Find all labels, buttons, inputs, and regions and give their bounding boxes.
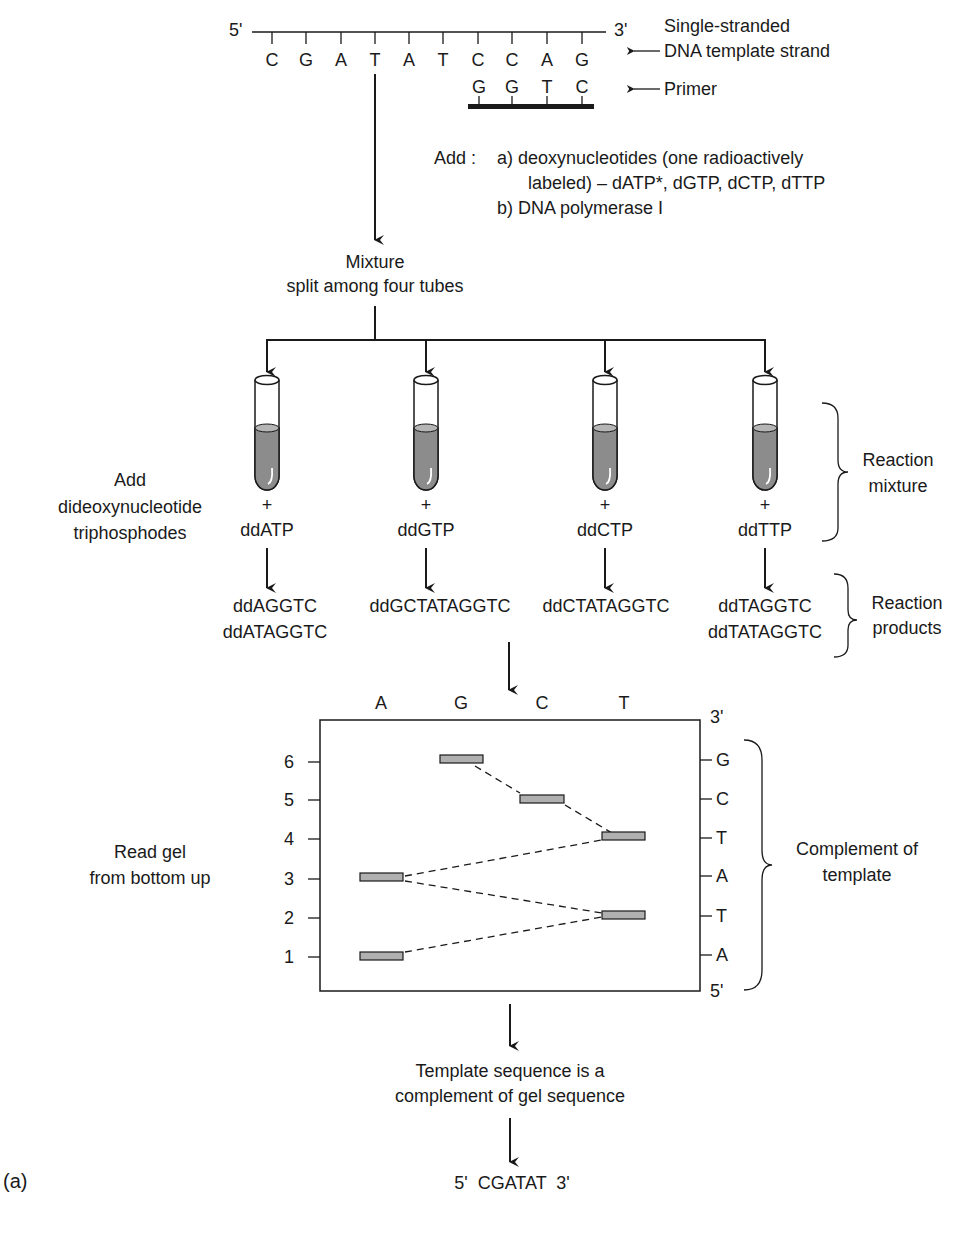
primer-label: Primer bbox=[664, 78, 717, 100]
tube-ddttp bbox=[753, 376, 777, 491]
lane-label: G bbox=[454, 692, 468, 714]
add-prefix: Add : bbox=[434, 147, 476, 169]
template-5prime: 5' bbox=[229, 19, 242, 41]
tube-plus: + bbox=[600, 494, 611, 516]
gel-3prime: 3' bbox=[710, 706, 723, 728]
primer-base: G bbox=[505, 76, 519, 98]
product: ddATAGGTC bbox=[223, 621, 327, 643]
primer-base: G bbox=[472, 76, 486, 98]
lane-label: A bbox=[375, 692, 387, 714]
add-a-line1: a) deoxynucleotides (one radioactively bbox=[497, 147, 803, 169]
template-label-line1: Single-stranded bbox=[664, 15, 790, 37]
template-base: A bbox=[335, 49, 347, 71]
primer-base: T bbox=[542, 76, 553, 98]
reaction-products-label-1: Reaction bbox=[871, 592, 942, 614]
complement-label-1: Complement of bbox=[796, 838, 918, 860]
tick-base: A bbox=[716, 944, 728, 966]
template-base: A bbox=[541, 49, 553, 71]
tick-base: T bbox=[716, 827, 727, 849]
label-arrows bbox=[634, 51, 660, 89]
product: ddCTATAGGTC bbox=[542, 595, 669, 617]
template-base: T bbox=[370, 49, 381, 71]
reaction-mixture-label-1: Reaction bbox=[862, 449, 933, 471]
conclusion-line2: complement of gel sequence bbox=[395, 1085, 625, 1107]
mixture-line1: Mixture bbox=[345, 251, 404, 273]
band-G-6 bbox=[440, 755, 483, 763]
mixture-line2: split among four tubes bbox=[286, 275, 463, 297]
tube-plus: + bbox=[760, 494, 771, 516]
lane-label: T bbox=[619, 692, 630, 714]
band-A-1 bbox=[360, 952, 403, 960]
tube-label-ddttp: ddTTP bbox=[738, 519, 792, 541]
tick-label: 5 bbox=[284, 789, 294, 811]
tick-base: T bbox=[716, 905, 727, 927]
add-dideoxy-line3: triphosphodes bbox=[73, 522, 186, 544]
band-T-4 bbox=[602, 832, 645, 840]
sequencing-gel bbox=[308, 720, 712, 991]
test-tubes bbox=[255, 376, 777, 491]
read-gel-label-2: from bottom up bbox=[89, 867, 210, 889]
template-3prime: 3' bbox=[614, 19, 627, 41]
product-arrows bbox=[267, 548, 765, 588]
template-base: G bbox=[575, 49, 589, 71]
reaction-products-label-2: products bbox=[872, 617, 941, 639]
tube-label-ddatp: ddATP bbox=[240, 519, 294, 541]
tube-label-ddgtp: ddGTP bbox=[397, 519, 454, 541]
band-T-2 bbox=[602, 911, 645, 919]
tick-label: 6 bbox=[284, 751, 294, 773]
product: ddGCTATAGGTC bbox=[369, 595, 510, 617]
brace-reaction-products bbox=[834, 574, 857, 657]
conclusion-line1: Template sequence is a bbox=[415, 1060, 604, 1082]
add-b-line: b) DNA polymerase I bbox=[497, 197, 663, 219]
tube-plus: + bbox=[421, 494, 432, 516]
brace-reaction-mixture bbox=[822, 403, 848, 541]
template-base: G bbox=[299, 49, 313, 71]
tick-base: G bbox=[716, 749, 730, 771]
template-base: T bbox=[438, 49, 449, 71]
tick-label: 4 bbox=[284, 828, 294, 850]
split-branches bbox=[266, 306, 765, 372]
tick-label: 3 bbox=[284, 868, 294, 890]
gel-5prime: 5' bbox=[710, 980, 723, 1002]
primer-base: C bbox=[576, 76, 589, 98]
template-label-line2: DNA template strand bbox=[664, 40, 830, 62]
read-gel-label-1: Read gel bbox=[114, 841, 186, 863]
band-A-3 bbox=[360, 873, 403, 881]
add-dideoxy-line2: dideoxynucleotide bbox=[58, 496, 202, 518]
product: ddAGGTC bbox=[233, 595, 317, 617]
add-a-line2: labeled) – dATP*, dGTP, dCTP, dTTP bbox=[528, 172, 825, 194]
tube-ddctp bbox=[593, 376, 617, 491]
brace-complement bbox=[744, 740, 772, 990]
complement-label-2: template bbox=[822, 864, 891, 886]
result-sequence: 5' CGATAT 3' bbox=[454, 1172, 570, 1194]
tube-label-ddctp: ddCTP bbox=[577, 519, 633, 541]
template-base: A bbox=[403, 49, 415, 71]
panel-label: (a) bbox=[3, 1170, 27, 1192]
band-C-5 bbox=[520, 795, 564, 803]
tick-label: 1 bbox=[284, 946, 294, 968]
add-dideoxy-line1: Add bbox=[114, 469, 146, 491]
tube-ddgtp bbox=[414, 376, 438, 491]
template-base: C bbox=[506, 49, 519, 71]
lane-label: C bbox=[536, 692, 549, 714]
reaction-mixture-label-2: mixture bbox=[868, 475, 927, 497]
tick-label: 2 bbox=[284, 907, 294, 929]
product: ddTAGGTC bbox=[718, 595, 812, 617]
tick-base: A bbox=[716, 865, 728, 887]
template-base: C bbox=[472, 49, 485, 71]
template-base: C bbox=[266, 49, 279, 71]
template-strand bbox=[252, 32, 606, 44]
tick-base: C bbox=[716, 788, 729, 810]
product: ddTATAGGTC bbox=[708, 621, 822, 643]
tube-plus: + bbox=[262, 494, 273, 516]
tube-ddatp bbox=[255, 376, 279, 491]
